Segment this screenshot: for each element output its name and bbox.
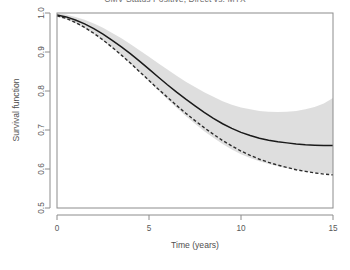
y-tick-label: 0.7 [37,124,46,136]
confidence-band-direct [57,13,333,173]
y-axis-title: Survival function [11,78,21,141]
x-tick-label: 10 [236,224,246,233]
y-tick-label: 0.6 [37,163,46,175]
y-tick-label: 1.0 [37,7,46,19]
y-tick-label: 0.9 [37,46,46,58]
y-tick-label: 0.5 [37,202,46,214]
x-tick-label: 5 [147,224,152,233]
x-tick-label: 15 [328,224,338,233]
x-axis-title: Time (years) [171,240,219,250]
x-axis: 051015 [55,215,338,233]
y-tick-label: 0.8 [37,85,46,97]
y-axis: 0.50.60.70.80.91.0 [37,7,50,214]
chart-canvas: 051015 0.50.60.70.80.91.0 Time (years) S… [0,0,350,270]
survival-plot-figure: CMV Status Positive, Direct vs. MTX 0510… [0,0,350,270]
x-tick-label: 0 [55,224,60,233]
